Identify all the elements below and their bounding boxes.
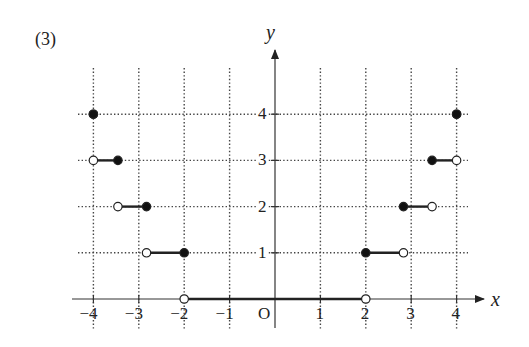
closed-endpoint — [428, 156, 436, 164]
y-tick-label: 1 — [258, 244, 267, 261]
x-tick-label: 2 — [361, 305, 370, 322]
open-endpoint — [89, 156, 97, 164]
x-tick-label: 1 — [315, 305, 324, 322]
closed-endpoint — [399, 202, 407, 210]
closed-endpoint — [89, 110, 97, 118]
open-endpoint — [428, 202, 436, 210]
closed-endpoint — [452, 110, 460, 118]
figure-label: (3) — [35, 30, 56, 48]
x-tick-label: −2 — [170, 305, 188, 322]
x-axis-label: x — [491, 289, 500, 309]
x-tick-label: 3 — [406, 305, 415, 322]
origin-label: O — [258, 305, 270, 322]
dotted-grid — [78, 68, 468, 330]
axes — [72, 50, 484, 328]
open-endpoint — [114, 202, 122, 210]
x-tick-label: −3 — [125, 305, 143, 322]
open-endpoint — [399, 249, 407, 257]
y-axis-label: y — [266, 22, 275, 42]
x-tick-label: 4 — [452, 305, 461, 322]
y-tick-label: 4 — [258, 105, 267, 122]
open-endpoint — [180, 295, 188, 303]
y-tick-label: 2 — [258, 198, 267, 215]
closed-endpoint — [180, 249, 188, 257]
x-tick-label: −1 — [216, 305, 234, 322]
closed-endpoint — [362, 249, 370, 257]
y-tick-label: 3 — [258, 151, 267, 168]
closed-endpoint — [142, 202, 150, 210]
open-endpoint — [142, 249, 150, 257]
open-endpoint — [452, 156, 460, 164]
x-tick-label: −4 — [79, 305, 97, 322]
open-endpoint — [362, 295, 370, 303]
step-function-graph — [0, 0, 529, 347]
closed-endpoint — [114, 156, 122, 164]
